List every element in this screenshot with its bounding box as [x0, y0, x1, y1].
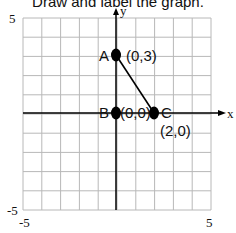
point-a-name: A: [99, 47, 109, 64]
x-axis-arrow-icon: [218, 110, 226, 116]
point-a-coord: (0,3): [126, 47, 157, 64]
point-b-coord: (0,0): [120, 104, 151, 121]
point-b-name: B: [99, 104, 109, 121]
x-max-tick: 5: [206, 215, 213, 230]
y-max-tick: 5: [9, 11, 16, 26]
point-c-name: C: [161, 104, 172, 121]
point-c-coord: (2,0): [160, 122, 191, 139]
y-min-tick: -5: [7, 203, 18, 218]
x-min-tick: -5: [19, 215, 30, 230]
chart-title: Draw and label the graph.: [32, 0, 204, 10]
y-axis-label: y: [120, 3, 127, 18]
x-axis-label: x: [227, 106, 234, 121]
point-a: [111, 49, 121, 62]
coordinate-graph: Draw and label the graph. x y 5 -5 -5 5 …: [0, 0, 236, 233]
